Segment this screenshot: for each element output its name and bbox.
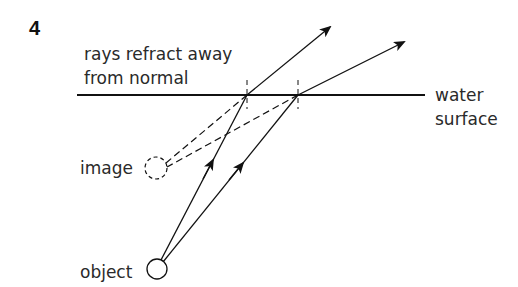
object-circle xyxy=(147,259,167,279)
image-circle xyxy=(145,157,167,179)
virtual-ray-left xyxy=(166,95,247,163)
question-number: 4 xyxy=(29,17,41,39)
incident-arrow-right xyxy=(229,163,243,180)
refraction-diagram: 4 rays refract away from normal water su… xyxy=(0,0,518,287)
incident-arrow-left xyxy=(203,160,213,179)
virtual-ray-right xyxy=(167,95,298,167)
image-label: image xyxy=(80,158,133,178)
surface-label: surface xyxy=(435,109,498,129)
refracted-ray-right xyxy=(298,42,404,95)
water-label: water xyxy=(435,85,483,105)
object-label: object xyxy=(80,262,133,282)
annotation-line-2: from normal xyxy=(84,68,189,88)
annotation-line-1: rays refract away xyxy=(84,44,232,64)
